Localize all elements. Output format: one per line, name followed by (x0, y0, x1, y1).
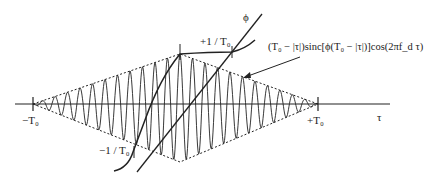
waveform (33, 54, 318, 159)
envelope-upper (33, 54, 318, 104)
sinc-curve (114, 40, 255, 171)
axis-label: τ (377, 111, 382, 123)
arrowhead-icon (243, 72, 251, 78)
formula-pointer (248, 57, 300, 76)
ambiguity-diagram: ϕ +1 / T₀ (T₀ − |τ|)sinc[ϕ(T₀ − |τ|)]cos… (0, 0, 430, 182)
phi-label: ϕ (243, 11, 249, 23)
upper-slope-label: +1 / T₀ (200, 35, 231, 47)
left-tick-label: −T₀ (22, 114, 39, 126)
right-tick-label: +T₀ (307, 114, 324, 126)
formula-label: (T₀ − |τ|)sinc[ϕ(T₀ − |τ|)]cos(2πf_d τ) (268, 41, 424, 53)
lower-slope-label: −1 / T₀ (99, 144, 130, 156)
